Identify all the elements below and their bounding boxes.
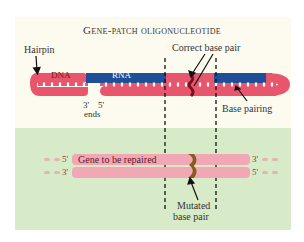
ends-label: ends bbox=[84, 109, 101, 119]
correct-base-pair-label: Correct base pair bbox=[172, 42, 240, 53]
mutated-label-line1: Mutated bbox=[177, 200, 210, 211]
rna-label: RNA bbox=[112, 70, 131, 80]
right-bottom-end-label: 5' bbox=[252, 167, 258, 177]
dna-label: DNA bbox=[51, 70, 71, 80]
mutated-label-line2: base pair bbox=[173, 211, 209, 222]
base-pairing-label: Base pairing bbox=[222, 103, 272, 114]
arrow-mutated bbox=[188, 178, 198, 200]
hairpin-label: Hairpin bbox=[24, 44, 55, 55]
left-bottom-end-label: 3' bbox=[62, 167, 68, 177]
left-top-end-label: 5' bbox=[62, 154, 68, 164]
gene-label: Gene to be repaired bbox=[78, 154, 157, 165]
diagram-graphic bbox=[0, 0, 304, 242]
right-top-end-label: 3' bbox=[252, 154, 258, 164]
